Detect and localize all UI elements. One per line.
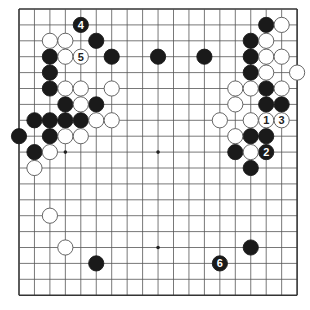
white-stone[interactable]: 1 bbox=[259, 113, 274, 128]
white-stone[interactable] bbox=[243, 113, 258, 128]
black-stone[interactable] bbox=[150, 49, 165, 64]
black-stone[interactable] bbox=[89, 33, 104, 48]
black-stone[interactable] bbox=[42, 65, 57, 80]
black-stone[interactable]: 2 bbox=[259, 145, 274, 160]
black-stone[interactable] bbox=[228, 145, 243, 160]
white-stone[interactable] bbox=[42, 208, 57, 223]
white-stone[interactable] bbox=[212, 113, 227, 128]
move-number-label: 2 bbox=[263, 146, 269, 158]
white-stone[interactable] bbox=[228, 81, 243, 96]
black-stone[interactable] bbox=[259, 17, 274, 32]
black-stone[interactable] bbox=[42, 49, 57, 64]
black-stone[interactable] bbox=[243, 129, 258, 144]
white-stone[interactable] bbox=[274, 49, 289, 64]
black-stone[interactable] bbox=[58, 97, 73, 112]
white-stone[interactable] bbox=[58, 129, 73, 144]
star-point bbox=[64, 150, 68, 154]
white-stone[interactable]: 5 bbox=[73, 49, 88, 64]
black-stone[interactable] bbox=[243, 49, 258, 64]
white-stone[interactable] bbox=[42, 33, 57, 48]
black-stone[interactable] bbox=[58, 113, 73, 128]
white-stone[interactable] bbox=[228, 97, 243, 112]
star-point bbox=[156, 246, 160, 250]
white-stone[interactable] bbox=[104, 113, 119, 128]
white-stone[interactable] bbox=[73, 81, 88, 96]
star-point bbox=[156, 150, 160, 154]
white-stone[interactable] bbox=[290, 65, 305, 80]
white-stone[interactable] bbox=[73, 97, 88, 112]
white-stone[interactable] bbox=[58, 49, 73, 64]
white-stone[interactable]: 3 bbox=[274, 113, 289, 128]
black-stone[interactable] bbox=[243, 160, 258, 175]
black-stone[interactable] bbox=[243, 65, 258, 80]
white-stone[interactable] bbox=[89, 113, 104, 128]
black-stone[interactable]: 6 bbox=[212, 256, 227, 271]
white-stone[interactable] bbox=[259, 49, 274, 64]
move-number-label: 3 bbox=[279, 114, 285, 126]
white-stone[interactable] bbox=[228, 129, 243, 144]
white-stone[interactable] bbox=[274, 81, 289, 96]
white-stone[interactable] bbox=[58, 33, 73, 48]
black-stone[interactable] bbox=[259, 129, 274, 144]
white-stone[interactable] bbox=[42, 145, 57, 160]
white-stone[interactable] bbox=[259, 33, 274, 48]
white-stone[interactable] bbox=[104, 81, 119, 96]
black-stone[interactable] bbox=[243, 33, 258, 48]
white-stone[interactable] bbox=[27, 160, 42, 175]
black-stone[interactable] bbox=[42, 129, 57, 144]
white-stone[interactable] bbox=[243, 145, 258, 160]
black-stone[interactable] bbox=[27, 145, 42, 160]
black-stone[interactable] bbox=[104, 49, 119, 64]
black-stone[interactable] bbox=[274, 97, 289, 112]
black-stone[interactable] bbox=[89, 97, 104, 112]
white-stone[interactable] bbox=[259, 65, 274, 80]
black-stone[interactable] bbox=[42, 113, 57, 128]
black-stone[interactable] bbox=[89, 256, 104, 271]
white-stone[interactable] bbox=[243, 81, 258, 96]
white-stone[interactable] bbox=[73, 129, 88, 144]
white-stone[interactable] bbox=[58, 81, 73, 96]
black-stone[interactable] bbox=[197, 49, 212, 64]
move-number-label: 1 bbox=[263, 114, 269, 126]
white-stone[interactable] bbox=[58, 240, 73, 255]
black-stone[interactable] bbox=[259, 97, 274, 112]
black-stone[interactable] bbox=[11, 129, 26, 144]
black-stone[interactable]: 4 bbox=[73, 17, 88, 32]
black-stone[interactable] bbox=[42, 81, 57, 96]
move-number-label: 6 bbox=[217, 257, 223, 269]
black-stone[interactable] bbox=[243, 240, 258, 255]
go-board: 426513 bbox=[0, 0, 310, 310]
black-stone[interactable] bbox=[259, 81, 274, 96]
black-stone[interactable] bbox=[73, 113, 88, 128]
black-stone[interactable] bbox=[27, 113, 42, 128]
move-number-label: 4 bbox=[78, 19, 85, 31]
move-number-label: 5 bbox=[78, 51, 84, 63]
white-stone[interactable] bbox=[274, 17, 289, 32]
